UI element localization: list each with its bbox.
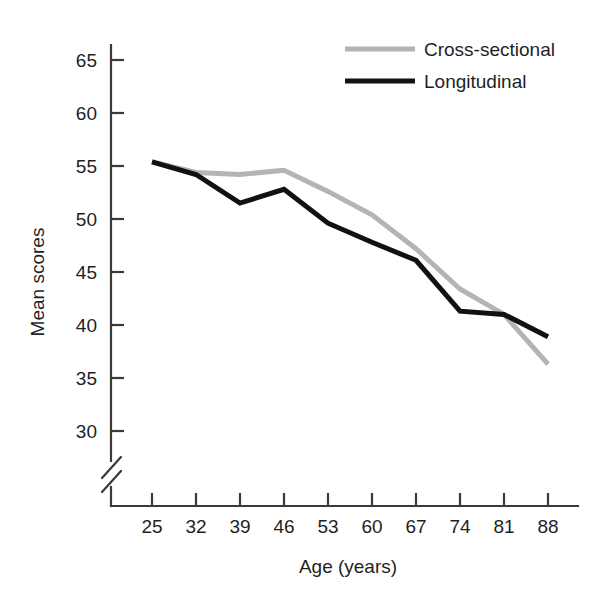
x-tick-label-81: 81 <box>493 516 514 537</box>
x-tick-label-67: 67 <box>405 516 426 537</box>
y-axis-title: Mean scores <box>27 228 48 337</box>
y-tick-label-65: 65 <box>76 50 97 71</box>
x-axis-title: Age (years) <box>299 556 397 577</box>
x-axis-ticks <box>152 493 548 506</box>
y-tick-label-40: 40 <box>76 315 97 336</box>
legend-label-longitudinal: Longitudinal <box>424 71 526 92</box>
x-axis-tick-labels: 25 32 39 46 53 60 67 74 81 88 <box>141 516 558 537</box>
x-tick-label-88: 88 <box>537 516 558 537</box>
y-tick-label-35: 35 <box>76 368 97 389</box>
x-tick-label-74: 74 <box>449 516 471 537</box>
line-chart: 65 60 55 50 45 40 35 30 25 32 39 <box>0 0 604 598</box>
y-axis-tick-labels: 65 60 55 50 45 40 35 30 <box>76 50 97 442</box>
legend-label-cross-sectional: Cross-sectional <box>424 39 555 60</box>
chart-container: 65 60 55 50 45 40 35 30 25 32 39 <box>0 0 604 598</box>
legend: Cross-sectional Longitudinal <box>345 39 555 92</box>
x-tick-label-60: 60 <box>361 516 382 537</box>
y-tick-label-30: 30 <box>76 421 97 442</box>
x-tick-label-46: 46 <box>273 516 294 537</box>
y-tick-label-45: 45 <box>76 262 97 283</box>
x-tick-label-32: 32 <box>185 516 206 537</box>
y-axis-ticks <box>111 60 124 431</box>
x-tick-label-53: 53 <box>317 516 338 537</box>
x-tick-label-39: 39 <box>229 516 250 537</box>
y-tick-label-50: 50 <box>76 209 97 230</box>
y-tick-label-60: 60 <box>76 103 97 124</box>
series-line-cross-sectional <box>152 162 548 364</box>
x-tick-label-25: 25 <box>141 516 162 537</box>
y-tick-label-55: 55 <box>76 156 97 177</box>
series-line-longitudinal <box>152 162 548 337</box>
